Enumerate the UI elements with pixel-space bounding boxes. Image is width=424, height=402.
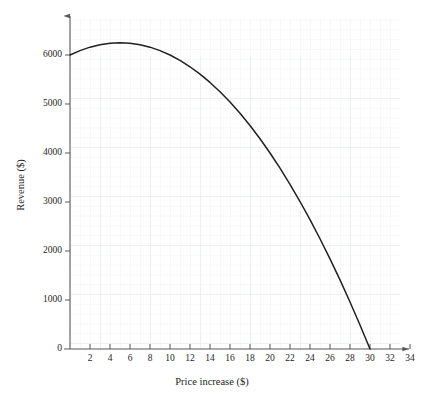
chart-figure: Revenue ($) Price increase ($) 0 1000 20…	[0, 0, 424, 402]
x-tick-label-14: 14	[205, 354, 215, 364]
x-tick-label-6: 6	[128, 354, 133, 364]
y-tick-label-4000: 4000	[28, 148, 62, 158]
x-tick-label-4: 4	[108, 354, 113, 364]
x-tick-label-32: 32	[385, 354, 395, 364]
origin-tick-label: 0	[50, 344, 62, 354]
chart-plot-area	[0, 0, 424, 402]
x-tick-label-8: 8	[148, 354, 153, 364]
x-tick-label-18: 18	[245, 354, 255, 364]
x-tick-label-26: 26	[325, 354, 335, 364]
x-tick-label-30: 30	[365, 354, 375, 364]
x-tick-label-12: 12	[185, 354, 195, 364]
y-tick-label-3000: 3000	[28, 197, 62, 207]
x-tick-label-24: 24	[305, 354, 315, 364]
y-axis-title: Revenue ($)	[10, 130, 30, 240]
x-tick-label-22: 22	[285, 354, 295, 364]
y-tick-label-6000: 6000	[28, 50, 62, 60]
y-axis-title-text: Revenue ($)	[15, 159, 26, 211]
x-tick-label-34: 34	[405, 354, 415, 364]
y-tick-label-5000: 5000	[28, 99, 62, 109]
y-tick-label-2000: 2000	[28, 246, 62, 256]
x-tick-label-2: 2	[88, 354, 93, 364]
x-tick-label-10: 10	[165, 354, 175, 364]
y-tick-marks	[65, 55, 70, 300]
x-tick-label-20: 20	[265, 354, 275, 364]
grid-major	[70, 56, 400, 349]
x-tick-label-16: 16	[225, 354, 235, 364]
y-tick-label-1000: 1000	[28, 295, 62, 305]
x-axis-title: Price increase ($)	[0, 377, 424, 388]
x-tick-label-28: 28	[345, 354, 355, 364]
